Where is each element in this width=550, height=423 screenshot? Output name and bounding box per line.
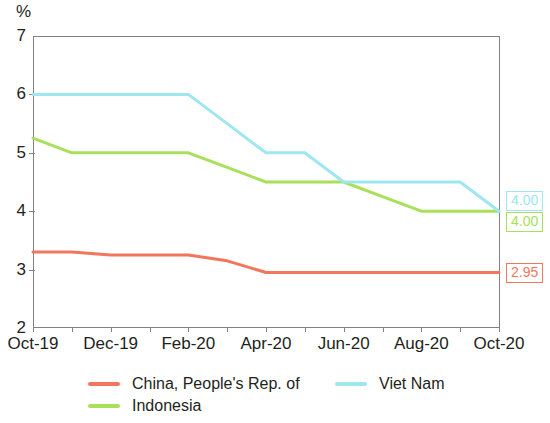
- legend-color-swatch: [335, 382, 367, 386]
- series-lines: [33, 36, 500, 328]
- end-value-label: 4.00: [506, 212, 543, 232]
- x-tick-mark: [188, 327, 189, 332]
- y-tick-label: 7: [4, 26, 26, 46]
- x-tick-mark: [383, 327, 384, 332]
- x-tick-label: Oct-19: [7, 334, 58, 354]
- legend-label: Indonesia: [132, 397, 201, 415]
- y-tick-label: 3: [4, 260, 26, 280]
- legend-label: Viet Nam: [379, 375, 445, 393]
- x-tick-mark: [460, 327, 461, 332]
- chart-legend: China, People's Rep. ofViet NamIndonesia: [0, 372, 550, 420]
- legend-item[interactable]: Indonesia: [88, 396, 201, 416]
- x-tick-label: Feb-20: [161, 334, 215, 354]
- x-tick-mark: [266, 327, 267, 332]
- x-tick-label: Apr-20: [240, 334, 291, 354]
- y-axis-unit-label: %: [16, 2, 31, 22]
- end-value-label: 2.95: [506, 263, 543, 283]
- series-line: [33, 252, 499, 272]
- x-tick-mark: [111, 327, 112, 332]
- x-tick-mark: [499, 327, 500, 332]
- x-tick-mark: [227, 327, 228, 332]
- legend-item[interactable]: China, People's Rep. of: [88, 374, 300, 394]
- y-tick-label: 4: [4, 201, 26, 221]
- x-tick-label: Jun-20: [318, 334, 370, 354]
- x-tick-label: Oct-20: [473, 334, 524, 354]
- x-tick-mark: [421, 327, 422, 332]
- x-tick-label: Dec-19: [83, 334, 138, 354]
- y-tick-label: 5: [4, 143, 26, 163]
- legend-color-swatch: [88, 382, 120, 386]
- legend-color-swatch: [88, 404, 120, 408]
- legend-item[interactable]: Viet Nam: [335, 374, 445, 394]
- x-tick-mark: [344, 327, 345, 332]
- x-tick-mark: [150, 327, 151, 332]
- x-tick-mark: [305, 327, 306, 332]
- y-tick-label: 6: [4, 84, 26, 104]
- plot-area: [33, 36, 500, 328]
- legend-label: China, People's Rep. of: [132, 375, 300, 393]
- x-tick-label: Aug-20: [394, 334, 449, 354]
- end-value-label: 4.00: [506, 191, 543, 211]
- x-tick-mark: [72, 327, 73, 332]
- policy-rate-line-chart: % 234567 Oct-19Dec-19Feb-20Apr-20Jun-20A…: [0, 0, 550, 423]
- x-tick-mark: [33, 327, 34, 332]
- series-line: [33, 138, 499, 211]
